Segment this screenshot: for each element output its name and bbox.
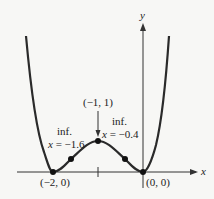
left-min-label: (−2, 0) — [40, 176, 70, 189]
x-axis-arrow-icon — [190, 169, 198, 175]
min-point-left — [50, 169, 56, 175]
x-axis-label: x — [200, 165, 206, 177]
inflection-left-value: x = −1.6 — [47, 138, 85, 150]
y-axis-arrow-icon — [140, 23, 146, 31]
max-point — [95, 138, 101, 144]
inflection-point-left — [68, 156, 74, 162]
inflection-right-num: = −0.4 — [107, 128, 139, 140]
y-axis-label: y — [139, 9, 145, 21]
inflection-left-num: = −1.6 — [53, 138, 85, 150]
max-label: (−1, 1) — [83, 96, 113, 109]
max-pointer-arrow-icon — [96, 130, 101, 137]
inflection-left-title: inf. — [57, 125, 72, 137]
origin-label: (0, 0) — [146, 176, 170, 189]
inflection-point-right — [122, 156, 128, 162]
graph: x y (−1, 1) (−2, 0) (0, 0) inf. x = −1.6… — [0, 0, 214, 199]
min-point-origin — [140, 169, 146, 175]
inflection-right-value: x = −0.4 — [101, 128, 139, 140]
inflection-right-title: inf. — [112, 115, 127, 127]
